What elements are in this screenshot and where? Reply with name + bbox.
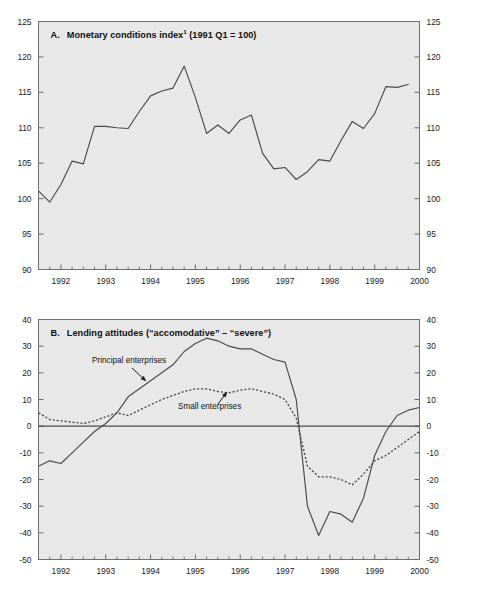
ytick-label-left-b: 30 (22, 341, 32, 351)
figure-container: 9090959510010010510511011011511512012012… (0, 0, 481, 605)
ytick-label-left-b: 20 (22, 368, 32, 378)
ytick-label-right-b: 30 (427, 341, 437, 351)
ytick-label-right-b: 10 (427, 395, 437, 405)
ytick-label-right-a: 125 (427, 17, 441, 27)
ytick-label-right-a: 120 (427, 52, 441, 62)
ytick-label-left-a: 120 (18, 52, 32, 62)
xtick-label-b: 2000 (410, 566, 429, 576)
xtick-label-b: 1998 (321, 566, 340, 576)
ytick-label-right-a: 90 (427, 265, 437, 275)
xtick-label-a: 1996 (231, 276, 250, 286)
xtick-label-b: 1999 (365, 566, 384, 576)
xtick-label-a: 2000 (410, 276, 429, 286)
xtick-label-b: 1996 (231, 566, 250, 576)
ytick-label-right-b: 0 (427, 421, 432, 431)
ytick-label-left-a: 105 (18, 158, 32, 168)
ytick-label-right-a: 95 (427, 229, 437, 239)
ytick-label-right-b: 20 (427, 368, 437, 378)
ytick-label-right-b: -20 (427, 475, 439, 485)
panel-title-main-b: Lending attitudes (“accomodative” – “sev… (67, 328, 271, 338)
xtick-label-a: 1998 (321, 276, 340, 286)
charts-svg: 9090959510010010510511011011511512012012… (0, 0, 481, 605)
ytick-label-left-b: -10 (19, 448, 31, 458)
xtick-label-b: 1995 (186, 566, 205, 576)
panel-title-suffix-a: (1991 Q1 = 100) (187, 30, 257, 40)
xtick-label-b: 1997 (276, 566, 295, 576)
xtick-label-a: 1993 (96, 276, 115, 286)
ytick-label-right-b: -10 (427, 448, 439, 458)
plot-background-a (39, 22, 420, 270)
panel-title-main-a: Monetary conditions index (67, 30, 184, 40)
ytick-label-left-b: 10 (22, 395, 32, 405)
panel-title-prefix-b: B. (51, 328, 67, 338)
ytick-label-right-a: 115 (427, 87, 441, 97)
ytick-label-right-a: 100 (427, 194, 441, 204)
xtick-label-a: 1997 (276, 276, 295, 286)
ytick-label-right-a: 105 (427, 158, 441, 168)
panel-title-a: A. Monetary conditions index1 (1991 Q1 =… (51, 28, 257, 39)
ytick-label-left-a: 125 (18, 17, 32, 27)
panel-title-prefix-a: A. (51, 30, 67, 40)
ytick-label-left-b: -30 (19, 501, 31, 511)
ytick-label-left-a: 90 (22, 265, 32, 275)
ytick-label-left-b: 0 (27, 421, 32, 431)
ytick-label-left-a: 95 (22, 229, 32, 239)
xtick-label-a: 1995 (186, 276, 205, 286)
principal-enterprises-label: Principal enterprises (92, 356, 166, 365)
ytick-label-right-b: 40 (427, 315, 437, 325)
ytick-label-right-a: 110 (427, 123, 441, 133)
panel-b: -50-50-40-40-30-30-20-20-10-100010102020… (19, 315, 439, 576)
small-enterprises-label: Small enterprises (178, 402, 241, 411)
ytick-label-left-b: -50 (19, 555, 31, 565)
ytick-label-left-b: -20 (19, 475, 31, 485)
xtick-label-a: 1992 (52, 276, 71, 286)
xtick-label-a: 1994 (141, 276, 160, 286)
ytick-label-left-a: 110 (18, 123, 32, 133)
ytick-label-right-b: -30 (427, 501, 439, 511)
ytick-label-right-b: -50 (427, 555, 439, 565)
ytick-label-left-a: 115 (18, 87, 32, 97)
ytick-label-left-b: 40 (22, 315, 32, 325)
ytick-label-left-a: 100 (18, 194, 32, 204)
xtick-label-b: 1992 (52, 566, 71, 576)
panel-title-b: B. Lending attitudes (“accomodative” – “… (51, 328, 272, 338)
xtick-label-b: 1993 (96, 566, 115, 576)
ytick-label-left-b: -40 (19, 528, 31, 538)
xtick-label-b: 1994 (141, 566, 160, 576)
ytick-label-right-b: -40 (427, 528, 439, 538)
panel-a: 9090959510010010510511011011511512012012… (18, 17, 441, 286)
xtick-label-a: 1999 (365, 276, 384, 286)
